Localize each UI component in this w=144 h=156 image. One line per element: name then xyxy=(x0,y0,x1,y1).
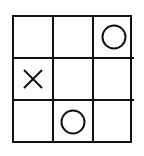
board-cell-r2-c0[interactable] xyxy=(14,101,54,143)
board-cell-r0-c2[interactable] xyxy=(94,17,134,59)
board-cell-r1-c2[interactable] xyxy=(94,59,134,101)
o-mark-icon xyxy=(94,17,134,57)
board-cell-r1-c0[interactable] xyxy=(14,59,54,101)
board-cell-r2-c1[interactable] xyxy=(54,101,94,143)
x-mark-icon xyxy=(14,59,52,99)
o-mark-icon xyxy=(54,101,92,143)
board-cell-r0-c0[interactable] xyxy=(14,17,54,59)
board-cell-r2-c2[interactable] xyxy=(94,101,134,143)
board-cell-r0-c1[interactable] xyxy=(54,17,94,59)
board-cell-r1-c1[interactable] xyxy=(54,59,94,101)
tic-tac-toe-board xyxy=(12,15,132,143)
